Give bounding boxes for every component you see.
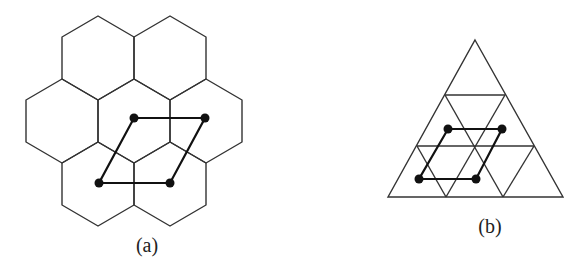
lattice-point xyxy=(498,125,507,134)
panel-b-triangle-grid xyxy=(388,40,563,197)
lattice-point xyxy=(130,114,139,123)
lattice-point xyxy=(415,175,424,184)
lattice-point xyxy=(95,179,104,188)
hexagon-cell xyxy=(26,79,98,163)
grid-line xyxy=(503,146,534,197)
panel-b-label: (b) xyxy=(478,215,501,238)
lattice-point xyxy=(201,114,210,123)
hexagon-cell xyxy=(62,16,134,100)
lattice-point xyxy=(444,125,453,134)
grid-line xyxy=(417,146,446,197)
panel-a-hex-tiling xyxy=(26,16,242,226)
hexagon-cell xyxy=(134,16,206,100)
outer-triangle xyxy=(388,40,563,197)
panel-a-label: (a) xyxy=(136,234,158,257)
rhombus-outline xyxy=(99,118,205,183)
lattice-point xyxy=(166,179,175,188)
lattice-point xyxy=(472,175,481,184)
